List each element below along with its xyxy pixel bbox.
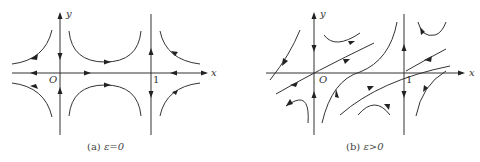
flow-arrow-icon [30,54,38,60]
trajectory [12,83,52,117]
tick-label-one: 1 [406,75,412,85]
trajectory [324,33,360,42]
y-axis-label: y [320,9,326,19]
caption-a: (a) ε=0 [87,141,124,152]
flow-arrow-icon [282,58,288,66]
flow-arrow-icon [30,71,37,76]
caption-condition: ε=0 [104,141,124,152]
trajectory [69,85,141,116]
flow-arrow-icon [402,44,407,51]
trajectory [276,43,374,94]
trajectory [160,31,200,64]
caption-prefix: (a) [87,141,101,152]
phase-portrait-b: y x O 1 (b) ε>0 [240,0,480,162]
x-axis-label: x [469,68,475,78]
phase-portrait-a-graphic [0,0,240,162]
phase-portrait-a: y x O 1 (a) ε=0 [0,0,240,162]
caption-b: (b) ε>0 [346,141,384,152]
flow-arrow-icon [58,53,63,60]
flow-arrow-icon [286,99,293,106]
flow-arrow-icon [104,60,111,65]
flow-arrow-icon [312,45,317,52]
y-axis-label: y [66,9,72,19]
flow-arrow-icon [104,83,111,88]
flow-arrow-icon [290,82,298,87]
origin-label: O [319,75,327,85]
trajectory [69,31,141,62]
trajectory [416,71,446,116]
x-axis-arrowhead-icon [458,71,465,76]
flow-arrow-icon [149,91,154,98]
flow-arrow-icon [170,71,177,76]
flow-arrow-icon [343,59,350,64]
flow-arrow-icon [312,91,317,98]
caption-prefix: (b) [346,141,360,152]
trajectory [358,105,390,115]
trajectory [160,83,200,116]
flow-arrow-icon [402,91,407,98]
origin-label: O [49,75,57,85]
x-axis-label: x [211,68,217,78]
flow-arrow-icon [149,48,154,55]
flow-arrow-icon [172,90,178,95]
caption-condition: ε>0 [363,141,383,152]
flow-arrow-icon [58,87,63,94]
flow-arrow-icon [348,41,355,45]
flow-arrow-icon [84,71,91,76]
y-axis-arrowhead-icon [312,12,317,19]
tick-label-one: 1 [153,75,159,85]
phase-portrait-b-graphic [240,0,480,162]
y-axis-arrowhead-icon [58,12,63,19]
x-axis-arrowhead-icon [201,71,208,76]
flow-arrow-icon [367,86,374,91]
